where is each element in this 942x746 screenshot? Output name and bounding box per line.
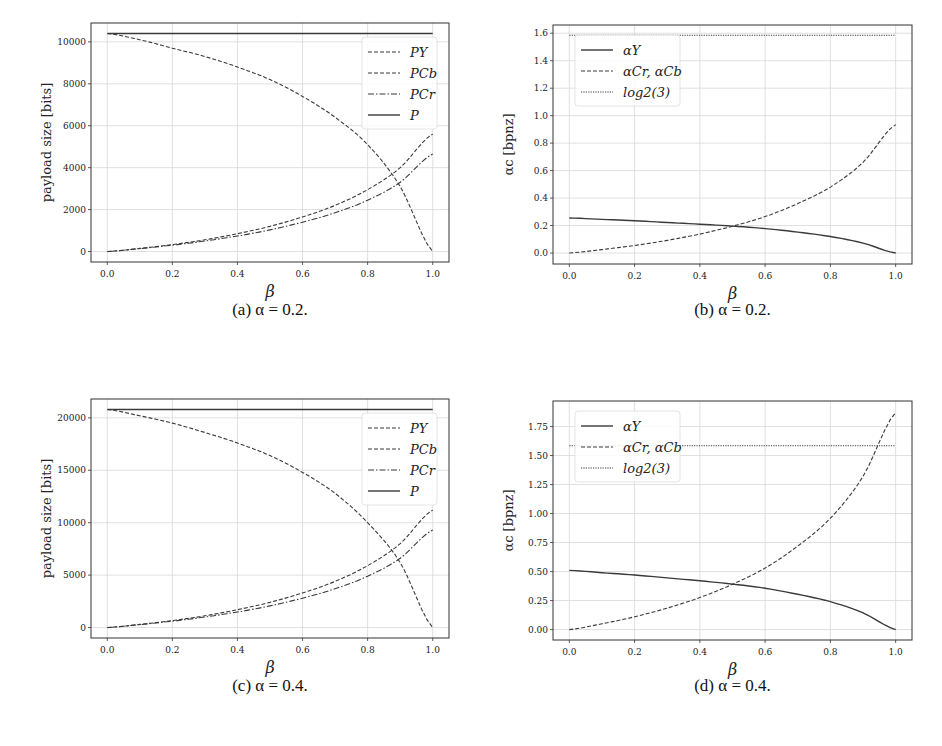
chart-d: 0.00.20.40.60.81.00.000.250.500.751.001.… [0,0,942,746]
legend-label: αCr, αCb [623,440,682,455]
y-tick-label: 1.00 [528,509,548,519]
y-tick-label: 0.50 [528,567,548,577]
x-tick-label: 1.0 [889,647,904,657]
caption-c: (c) α = 0.4. [91,676,449,696]
x-tick-label: 0.0 [562,647,577,657]
y-tick-label: 1.50 [528,451,548,461]
y-tick-label: 1.25 [528,480,548,490]
caption-b: (b) α = 0.2. [553,300,912,320]
y-axis-label: αc [bpnz] [501,489,516,551]
legend-label: log2(3) [623,461,670,476]
x-tick-label: 0.4 [693,647,708,657]
caption-a: (a) α = 0.2. [91,300,449,320]
x-tick-label: 0.2 [627,647,641,657]
caption-d: (d) α = 0.4. [553,676,912,696]
legend: αYαCr, αCblog2(3) [575,411,682,482]
y-tick-label: 1.75 [528,422,548,432]
y-tick-label: 0.75 [528,538,548,548]
x-tick-label: 0.8 [823,647,838,657]
legend-label: αY [623,419,642,434]
y-tick-label: 0.00 [528,625,548,635]
x-tick-label: 0.6 [758,647,773,657]
plot-area: 0.00.20.40.60.81.00.000.250.500.751.001.… [501,401,912,679]
y-tick-label: 0.25 [528,596,548,606]
